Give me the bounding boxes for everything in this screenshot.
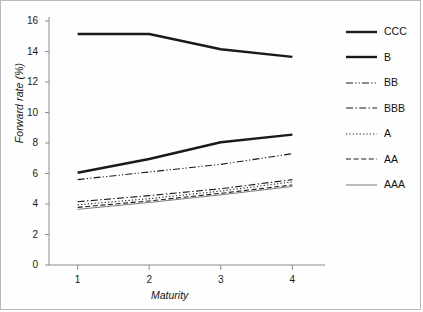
legend-item-ccc[interactable]: CCC [346,19,421,45]
x-tick-label: 2 [139,275,159,285]
legend-swatch-aa [346,153,377,165]
x-tick-label: 1 [68,275,88,285]
plot-area [49,21,321,265]
legend-label-aaa: AAA [384,179,405,190]
legend-label-b: B [384,52,391,63]
y-tick-label: 12 [16,77,38,87]
legend-label-aa: AA [384,154,398,165]
legend-label-bbb: BBB [384,103,405,114]
legend-label-a: A [384,128,391,139]
legend-swatch-bbb [346,102,377,114]
legend-item-aaa[interactable]: AAA [346,172,421,198]
x-tick-label: 3 [211,275,231,285]
x-tick-label: 4 [282,275,302,285]
legend-item-bbb[interactable]: BBB [346,96,421,122]
y-tick-label: 16 [16,16,38,26]
y-tick-label: 10 [16,108,38,118]
y-tick-label: 14 [16,47,38,57]
legend-item-bb[interactable]: BB [346,70,421,96]
x-axis-label: Maturity [151,289,188,301]
chart-figure: Forward rate (%) Maturity CCCBBBBBBAAAAA… [0,0,421,310]
legend-swatch-aaa [346,179,377,191]
chart-legend: CCCBBBBBBAAAAAA [346,19,421,198]
y-tick-label: 2 [16,230,38,240]
y-tick-label: 4 [16,199,38,209]
legend-item-a[interactable]: A [346,121,421,147]
legend-item-aa[interactable]: AA [346,147,421,173]
legend-swatch-b [346,51,377,63]
legend-swatch-bb [346,77,377,89]
legend-label-bb: BB [384,77,398,88]
legend-swatch-a [346,128,377,140]
legend-label-ccc: CCC [384,26,407,37]
y-tick-label: 8 [16,138,38,148]
legend-item-b[interactable]: B [346,45,421,71]
y-tick-label: 6 [16,169,38,179]
y-tick-label: 0 [16,260,38,270]
legend-swatch-ccc [346,26,377,38]
